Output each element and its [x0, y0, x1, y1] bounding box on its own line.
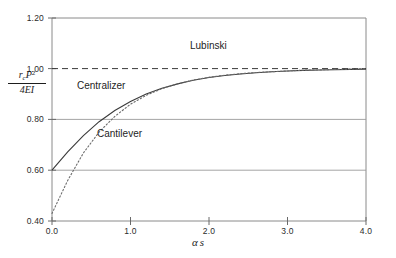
y-tick-label-0_60: 0.60 — [16, 165, 44, 175]
y-axis-title: rcP2 4EI — [6, 70, 48, 96]
x-tick-label-4_0: 4.0 — [351, 226, 381, 236]
x-tick-label-2_0: 2.0 — [194, 226, 224, 236]
plot-canvas — [0, 0, 396, 258]
annotation-cantilever: Cantilever — [97, 128, 142, 139]
x-tick-label-0_0: 0.0 — [37, 226, 67, 236]
chart-figure: 1.20 1.00 0.80 0.60 0.40 0.0 1.0 2.0 3.0… — [0, 0, 396, 258]
x-axis-s-symbol: s — [200, 236, 204, 248]
y-axis-title-denominator: 4EI — [6, 84, 48, 96]
x-tick-label-1_0: 1.0 — [116, 226, 146, 236]
annotation-lubinski: Lubinski — [190, 40, 227, 51]
annotation-centralizer: Centralizer — [77, 80, 125, 91]
y-tick-label-0_40: 0.40 — [16, 216, 44, 226]
y-axis-title-numerator: rcP2 — [6, 70, 48, 83]
y-tick-label-1_20: 1.20 — [16, 13, 44, 23]
y-axis-var-p-exponent: 2 — [32, 69, 36, 77]
x-axis-title: αs — [0, 236, 396, 248]
x-axis-alpha-symbol: α — [192, 236, 198, 248]
y-tick-label-0_80: 0.80 — [16, 114, 44, 124]
x-tick-label-3_0: 3.0 — [273, 226, 303, 236]
